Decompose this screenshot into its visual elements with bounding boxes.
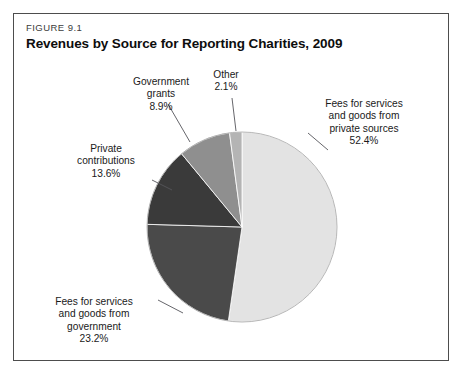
pie-slices bbox=[147, 132, 337, 322]
pie-label-private-contributions: Private contributions 13.6% bbox=[60, 143, 152, 180]
leader-line-fees-government bbox=[158, 300, 183, 313]
figure-root: FIGURE 9.1 Revenues by Source for Report… bbox=[0, 0, 464, 380]
pie-slice-private-sources bbox=[228, 132, 337, 322]
pie-label-fees-government: Fees for services and goods from governm… bbox=[32, 296, 156, 346]
pie-slice-fees-government bbox=[147, 224, 242, 321]
pie-label-government-grants: Government grants 8.9% bbox=[118, 76, 204, 113]
leader-line-other bbox=[232, 98, 236, 131]
pie-label-other: Other 2.1% bbox=[200, 69, 252, 94]
pie-label-private-sources: Fees for services and goods from private… bbox=[312, 98, 416, 148]
